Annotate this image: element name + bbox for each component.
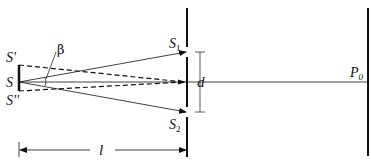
label-slit-top: S1 bbox=[169, 36, 181, 53]
label-source-bottom: S'' bbox=[6, 93, 20, 108]
label-slit-separation: d bbox=[197, 74, 205, 90]
label-source-distance: l bbox=[99, 142, 103, 158]
angle-beta-pointer bbox=[46, 52, 56, 79]
label-source-top: S' bbox=[6, 50, 17, 65]
double-slit-diagram: S' S S'' β S1 S2 d P0 l bbox=[0, 0, 371, 167]
label-slit-bottom: S2 bbox=[169, 117, 181, 134]
label-angle-beta: β bbox=[57, 42, 65, 57]
label-screen-point: P0 bbox=[349, 65, 364, 82]
midpoint-arrowhead bbox=[178, 80, 186, 85]
label-source-center: S bbox=[6, 75, 13, 90]
